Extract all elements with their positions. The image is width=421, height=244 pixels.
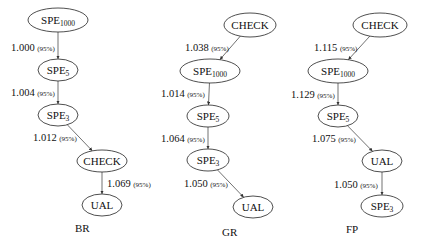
node-gr-ual: UAL xyxy=(233,196,273,218)
edge-confidence: (95%) xyxy=(187,91,205,99)
edge-confidence: (95%) xyxy=(340,45,358,53)
edge-br-spe3-to-br-check: 1.012 (95%) xyxy=(33,125,92,151)
node-fp-spe5: SPE5 xyxy=(318,105,358,127)
edge-arrow xyxy=(208,83,209,105)
node-label: UAL xyxy=(242,201,265,213)
node-label-base: SPE xyxy=(197,154,216,166)
edge-gr-spe3-to-gr-ual: 1.050 (95%) xyxy=(184,170,244,197)
node-label: CHECK xyxy=(361,19,398,31)
edge-confidence: (95%) xyxy=(317,92,335,100)
edge-fp-spe5-to-fp-ual: 1.075 (95%) xyxy=(312,126,373,152)
edge-confidence: (95%) xyxy=(360,182,378,190)
edge-confidence: (95%) xyxy=(133,181,151,189)
edge-label: 1.004 (95%) xyxy=(11,87,55,98)
edge-label: 1.115 (95%) xyxy=(314,42,358,53)
edge-gr-check-to-gr-spe1000: 1.038 (95%) xyxy=(185,36,240,60)
node-label-base: SPE xyxy=(371,200,390,212)
node-br-spe3: SPE3 xyxy=(38,104,78,126)
graph-caption: FP xyxy=(346,223,358,235)
graphs-svg: 1.000 (95%)1.004 (95%)1.012 (95%)1.069 (… xyxy=(0,0,421,244)
edge-label: 1.129 (95%) xyxy=(291,89,335,100)
node-label-subscript: 3 xyxy=(216,159,220,168)
diagram-canvas: 1.000 (95%)1.004 (95%)1.012 (95%)1.069 (… xyxy=(0,0,421,244)
graph-caption: BR xyxy=(75,222,90,234)
edge-fp-check-to-fp-spe1000: 1.115 (95%) xyxy=(314,36,370,60)
node-label-subscript: 5 xyxy=(346,115,350,124)
edge-value: 1.050 xyxy=(334,179,360,190)
node-label-base: CHECK xyxy=(231,19,268,31)
edge-fp-spe1000-to-fp-spe5: 1.129 (95%) xyxy=(291,83,338,105)
edge-label: 1.000 (95%) xyxy=(11,42,55,53)
edge-value: 1.075 xyxy=(312,133,338,144)
edge-br-spe1000-to-br-spe5: 1.000 (95%) xyxy=(11,32,58,59)
node-gr-spe5: SPE5 xyxy=(187,105,229,127)
edge-confidence: (95%) xyxy=(37,45,55,53)
node-label-subscript: 5 xyxy=(66,69,70,78)
edge-label: 1.014 (95%) xyxy=(161,88,205,99)
node-label-base: SPE xyxy=(47,109,66,121)
node-label-base: SPE xyxy=(197,110,216,122)
graph-gr: 1.038 (95%)1.014 (95%)1.064 (95%)1.050 (… xyxy=(161,13,276,238)
edge-label: 1.050 (95%) xyxy=(184,178,228,189)
edge-value: 1.064 xyxy=(161,133,187,144)
node-gr-spe1000: SPE1000 xyxy=(180,59,240,83)
node-label-base: UAL xyxy=(91,199,114,211)
node-label-base: SPE xyxy=(41,14,60,26)
edge-confidence: (95%) xyxy=(187,136,205,144)
graph-fp: 1.115 (95%)1.129 (95%)1.075 (95%)1.050 (… xyxy=(291,13,407,235)
node-label: UAL xyxy=(91,199,114,211)
edge-confidence: (95%) xyxy=(37,90,55,98)
edge-value: 1.050 xyxy=(184,178,210,189)
node-label-base: UAL xyxy=(242,201,265,213)
edge-label: 1.069 (95%) xyxy=(107,178,151,189)
node-br-ual: UAL xyxy=(82,194,122,216)
node-label: UAL xyxy=(371,155,394,167)
node-label-base: CHECK xyxy=(83,155,120,167)
edge-confidence: (95%) xyxy=(211,45,229,53)
edge-value: 1.014 xyxy=(161,88,187,99)
node-label-base: SPE xyxy=(193,65,212,77)
node-fp-spe1000: SPE1000 xyxy=(308,59,368,83)
node-br-spe1000: SPE1000 xyxy=(28,8,88,32)
graph-caption: GR xyxy=(222,226,238,238)
edge-gr-spe1000-to-gr-spe5: 1.014 (95%) xyxy=(161,83,209,105)
edge-br-spe5-to-br-spe3: 1.004 (95%) xyxy=(11,81,58,104)
node-fp-spe3: SPE3 xyxy=(361,195,403,217)
edge-label: 1.064 (95%) xyxy=(161,133,205,144)
node-label-subscript: 1000 xyxy=(212,70,227,79)
node-label-base: CHECK xyxy=(361,19,398,31)
edge-confidence: (95%) xyxy=(59,135,77,143)
edge-confidence: (95%) xyxy=(338,136,356,144)
node-label-subscript: 3 xyxy=(390,205,394,214)
edge-value: 1.004 xyxy=(11,87,37,98)
edge-label: 1.075 (95%) xyxy=(312,133,356,144)
edge-label: 1.050 (95%) xyxy=(334,179,378,190)
node-gr-check: CHECK xyxy=(224,13,276,37)
edge-value: 1.012 xyxy=(33,132,59,143)
edge-value: 1.000 xyxy=(11,42,37,53)
node-label-subscript: 5 xyxy=(216,115,220,124)
edge-fp-ual-to-fp-spe3: 1.050 (95%) xyxy=(334,172,382,195)
node-label-base: SPE xyxy=(327,110,346,122)
edge-value: 1.115 xyxy=(314,42,340,53)
edge-label: 1.038 (95%) xyxy=(185,42,229,53)
node-label-subscript: 3 xyxy=(66,114,70,123)
node-fp-check: CHECK xyxy=(353,13,407,37)
edge-value: 1.129 xyxy=(291,89,317,100)
node-label-base: UAL xyxy=(371,155,394,167)
edge-value: 1.069 xyxy=(107,178,133,189)
node-label-base: SPE xyxy=(321,65,340,77)
node-label: CHECK xyxy=(231,19,268,31)
edge-br-check-to-br-ual: 1.069 (95%) xyxy=(102,172,151,194)
node-label-subscript: 1000 xyxy=(60,19,75,28)
node-label: CHECK xyxy=(83,155,120,167)
node-label-base: SPE xyxy=(47,64,66,76)
node-br-spe5: SPE5 xyxy=(38,59,78,81)
edge-confidence: (95%) xyxy=(210,181,228,189)
graph-br: 1.000 (95%)1.004 (95%)1.012 (95%)1.069 (… xyxy=(11,8,151,234)
node-gr-spe3: SPE3 xyxy=(187,149,229,171)
edge-label: 1.012 (95%) xyxy=(33,132,77,143)
node-fp-ual: UAL xyxy=(362,150,402,172)
node-label-subscript: 1000 xyxy=(340,70,355,79)
edge-gr-spe5-to-gr-spe3: 1.064 (95%) xyxy=(161,127,208,149)
